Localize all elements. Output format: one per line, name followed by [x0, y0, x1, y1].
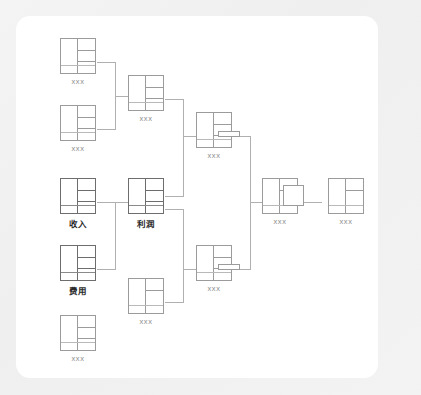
glyph-row-rule-1 — [77, 117, 95, 118]
node-label: xxx — [54, 144, 102, 153]
glyph-row-rule-2 — [77, 338, 95, 339]
edge-n2-n6-stub — [97, 129, 115, 130]
glyph-divider-vertical — [77, 106, 78, 140]
node-label: 收入 — [54, 217, 102, 229]
glyph-divider-vertical — [77, 246, 78, 280]
edge-n4-n7-stub — [97, 269, 115, 270]
table-glyph — [60, 178, 96, 214]
glyph-divider-vertical — [279, 179, 280, 213]
edge-merge-b-out — [115, 202, 128, 203]
node-label: xxx — [54, 354, 102, 363]
glyph-divider-vertical — [77, 39, 78, 73]
glyph-row-rule-2 — [77, 268, 95, 269]
table-glyph — [128, 75, 164, 111]
glyph-row-rule-1 — [145, 290, 163, 291]
glyph-divider-vertical — [77, 179, 78, 213]
glyph-row-rule-2 — [145, 98, 163, 99]
table-glyph — [328, 178, 364, 214]
node-label: 费用 — [54, 284, 102, 296]
edge-merge-c-bus — [183, 99, 184, 197]
glyph-row-rule-1 — [77, 190, 95, 191]
glyph-divider-vertical — [213, 246, 214, 280]
edge-merge-b-bus — [115, 202, 116, 270]
glyph-row-rule-1 — [77, 257, 95, 258]
node-label: xxx — [256, 217, 304, 226]
edge-merge-d-out — [183, 269, 196, 270]
glyph-divider-vertical — [145, 179, 146, 213]
glyph-footer-rule — [129, 205, 163, 206]
node-label: xxx — [122, 114, 170, 123]
table-glyph — [60, 105, 96, 141]
edge-merge-a-out — [115, 96, 128, 97]
glyph-extension-bar — [218, 264, 240, 270]
glyph-divider-vertical — [345, 179, 346, 213]
glyph-divider-vertical — [145, 76, 146, 110]
glyph-footer-rule — [129, 305, 163, 306]
node-label: xxx — [190, 284, 238, 293]
glyph-footer-rule — [61, 205, 95, 206]
table-glyph — [196, 245, 232, 281]
edge-n8-n10-stub — [165, 302, 183, 303]
table-glyph — [128, 178, 164, 214]
glyph-footer-rule — [197, 272, 231, 273]
table-glyph — [60, 245, 96, 281]
edge-n11-n12 — [302, 202, 322, 203]
glyph-row-rule-1 — [213, 257, 231, 258]
glyph-footer-rule — [61, 342, 95, 343]
node-label: xxx — [122, 317, 170, 326]
table-glyph — [60, 315, 96, 351]
edge-merge-d-bus — [183, 209, 184, 303]
glyph-footer-rule — [61, 272, 95, 273]
glyph-divider-vertical — [145, 279, 146, 313]
edge-merge-e-out — [250, 202, 262, 203]
node-label: 利润 — [122, 217, 170, 229]
glyph-overlay-square — [283, 185, 304, 206]
glyph-row-rule-2 — [145, 201, 163, 202]
glyph-extension-bar — [218, 131, 240, 137]
glyph-row-rule-2 — [77, 61, 95, 62]
table-glyph — [60, 38, 96, 74]
glyph-footer-rule — [61, 65, 95, 66]
glyph-row-rule-2 — [77, 201, 95, 202]
glyph-divider-vertical — [77, 316, 78, 350]
edge-n7-n10-stub — [165, 209, 183, 210]
lineage-diagram: xxx xxx 收入 费用 — [0, 0, 421, 395]
node-label: xxx — [54, 77, 102, 86]
edge-n7-n9-stub — [165, 196, 183, 197]
glyph-row-rule-1 — [345, 190, 363, 191]
edge-merge-c-out — [183, 136, 196, 137]
glyph-row-rule-1 — [145, 190, 163, 191]
glyph-footer-rule — [61, 132, 95, 133]
node-label: xxx — [190, 151, 238, 160]
table-glyph — [128, 278, 164, 314]
glyph-footer-rule — [197, 139, 231, 140]
node-label: xxx — [322, 217, 370, 226]
table-glyph — [196, 112, 232, 148]
edge-merge-e-bus — [250, 136, 251, 270]
glyph-row-rule-1 — [213, 124, 231, 125]
glyph-row-rule-1 — [77, 327, 95, 328]
glyph-divider-vertical — [213, 113, 214, 147]
edge-n1-n6-stub — [97, 62, 115, 63]
glyph-row-rule-1 — [145, 87, 163, 88]
edge-n3-n7-stub — [97, 202, 115, 203]
glyph-row-rule-1 — [77, 50, 95, 51]
glyph-row-rule-2 — [77, 128, 95, 129]
edge-n6-n9-stub — [165, 99, 183, 100]
glyph-footer-rule — [129, 102, 163, 103]
glyph-footer-rule — [329, 205, 363, 206]
